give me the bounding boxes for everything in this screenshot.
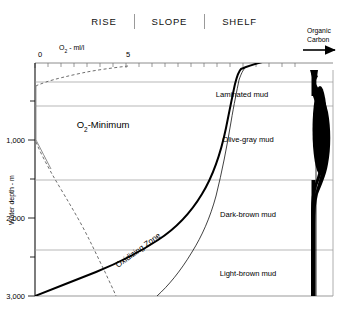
top-axis-tick-0: 0: [38, 50, 42, 59]
facies-label-light-brown-mud: Light-brown mud: [220, 269, 277, 278]
cross-section-plot: O2 - ml/l 0 5: [0, 0, 348, 313]
facies-gridlines: [35, 82, 333, 250]
facies-label-dark-brown-mud: Dark-brown mud: [220, 210, 276, 219]
organic-carbon-label-line1: Organic: [307, 27, 331, 35]
plot-frame: [35, 63, 333, 296]
depth-tick-3000: 3,000: [6, 292, 25, 301]
o2-minimum-annotation: O2-Minimum: [77, 119, 130, 133]
depth-tick-1000: 1,000: [6, 136, 25, 145]
seafloor-boundary-curve: [35, 36, 333, 296]
organic-carbon-profile: [310, 70, 330, 296]
organic-carbon-label: Organic Carbon: [307, 27, 331, 43]
facies-label-olive-gray-mud: Olive-gray mud: [222, 135, 273, 144]
depth-axis-label: Water depth - m: [8, 175, 16, 225]
top-axis-tick-5: 5: [126, 50, 130, 59]
facies-label-laminated-mud: Laminated mud: [216, 90, 268, 99]
organic-carbon-label-line2: Carbon: [307, 36, 330, 43]
figure-root: RISE SLOPE SHELF: [0, 0, 348, 313]
depth-axis: 1,000 2,000 3,000 Water depth - m: [6, 101, 35, 301]
top-oxygen-axis: O2 - ml/l 0 5: [35, 44, 333, 68]
top-axis-label: O2 - ml/l: [59, 44, 85, 54]
